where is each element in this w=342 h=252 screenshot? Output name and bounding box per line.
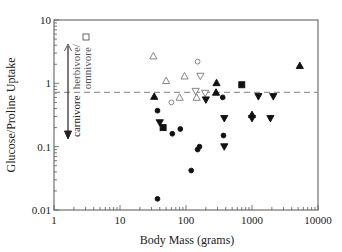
- x-tick-label: 1000: [241, 214, 264, 226]
- plot-border: [54, 20, 318, 210]
- omnivore-label: omnivore: [81, 47, 93, 89]
- y-tick-label: 0.01: [32, 204, 51, 216]
- y-axis-label: Glucose/Proline Uptake: [4, 58, 18, 173]
- diet-annotation: herbivore/omnivorecarnivore: [65, 34, 94, 139]
- carnivore-label: carnivore: [70, 95, 82, 137]
- open-triangle-up-point: [181, 73, 188, 79]
- open-triangle-up-point: [163, 77, 170, 83]
- filled-triangle-up-point: [296, 62, 303, 68]
- open-triangle-up-point: [176, 94, 183, 100]
- filled-square-point: [239, 82, 245, 88]
- filled-square-point: [160, 125, 166, 131]
- plot-frame: [54, 20, 318, 210]
- open-circle-point: [195, 59, 200, 64]
- x-tick-label: 100: [178, 214, 195, 226]
- y-tick-label: 0.1: [37, 141, 51, 153]
- filled-triangle-down-point: [221, 115, 228, 121]
- open-triangle-up-point: [193, 94, 200, 100]
- filled-triangle-down-point: [248, 115, 255, 121]
- filled-triangle-down-point: [202, 97, 209, 103]
- filled-triangle-down-point: [221, 144, 228, 150]
- open-square-marker-icon: [83, 34, 89, 40]
- open-circle-point: [169, 100, 174, 105]
- x-tick-label: 10000: [304, 214, 332, 226]
- x-axis-label: Body Mass (grams): [140, 233, 235, 247]
- filled-circle-point: [170, 131, 175, 136]
- x-tick-label: 1: [51, 214, 57, 226]
- y-tick-label: 1: [46, 77, 52, 89]
- filled-circle-point: [197, 144, 202, 149]
- filled-triangle-up-point: [213, 79, 220, 85]
- axis-ticks: [54, 20, 318, 210]
- filled-triangle-up-point: [151, 93, 158, 99]
- filled-circle-point: [189, 168, 194, 173]
- filled-circle-point: [178, 127, 183, 132]
- open-triangle-down-point: [197, 73, 204, 79]
- filled-circle-point: [220, 95, 225, 100]
- open-triangle-down-point: [202, 90, 209, 96]
- filled-circle-point: [155, 196, 160, 201]
- data-points: [150, 52, 304, 201]
- x-tick-label: 10: [115, 214, 127, 226]
- filled-triangle-down-point: [255, 94, 262, 100]
- open-triangle-up-point: [150, 52, 157, 58]
- filled-circle-point: [155, 108, 160, 113]
- filled-triangle-down-point: [267, 115, 274, 121]
- y-tick-label: 10: [40, 14, 52, 26]
- filled-circle-point: [221, 133, 226, 138]
- open-triangle-down-point: [192, 88, 199, 94]
- filled-triangle-down-point: [270, 94, 277, 100]
- scatter-chart: 1101001000100000.010.1110 herbivore/omni…: [0, 0, 342, 252]
